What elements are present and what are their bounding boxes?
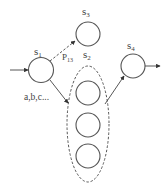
state-s4-circle — [121, 54, 145, 78]
state-s1: s1 — [29, 45, 54, 83]
state-s2-group: s2 — [67, 48, 109, 182]
edge-s2-s4 — [105, 76, 124, 104]
state-s3: s3 — [76, 5, 100, 46]
edge-s1-s2 — [50, 80, 68, 103]
state-s1-label: s1 — [34, 45, 42, 59]
edge-label-p13: P13 — [62, 52, 73, 63]
state-s1-circle — [29, 58, 54, 83]
state-s4-label: s4 — [127, 39, 135, 53]
state-s3-circle — [76, 22, 100, 46]
state-s2-inner-1 — [76, 81, 100, 105]
state-s2-inner-2 — [76, 113, 100, 137]
state-s3-label: s3 — [82, 5, 90, 19]
state-s2-label: s2 — [83, 48, 91, 62]
state-s4: s4 — [121, 39, 145, 78]
state-diagram: s1 s3 P13 s2 a,b,c... s4 — [0, 0, 168, 187]
state-s2-inner-3 — [76, 144, 100, 168]
edge-label-abc: a,b,c... — [24, 92, 49, 102]
